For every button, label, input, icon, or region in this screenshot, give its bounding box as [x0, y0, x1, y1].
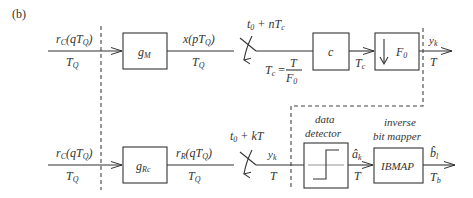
top-row: rC(qTQ) TQ gM x(pTQ) TQ t0 + nTc	[48, 17, 452, 86]
chip-period-equation: Tc = T F0	[265, 56, 302, 86]
top-sampler-time: t0 + nTc	[247, 17, 285, 32]
bottom-sampler-time: t0 + kT	[230, 129, 265, 144]
detector-output-rate: T	[354, 169, 362, 183]
svg-text:Tc =: Tc =	[265, 63, 285, 78]
top-output-signal: yk	[428, 34, 438, 48]
mapper-title-2: bit mapper	[373, 130, 422, 142]
top-mid-rate: TQ	[192, 55, 205, 70]
top-mid-signal: x(pTQ)	[182, 32, 215, 47]
detector-title-1: data	[315, 113, 335, 125]
mapper-title-1: inverse	[384, 116, 416, 128]
c-label: c	[328, 45, 334, 59]
svg-text:F0: F0	[285, 71, 297, 86]
bottom-input-signal: rC(qTQ)	[56, 146, 92, 161]
top-output-rate: T	[430, 55, 438, 69]
c-out-rate: Tc	[355, 56, 366, 71]
bottom-mid-rate: TQ	[188, 169, 201, 184]
top-input-rate: TQ	[66, 55, 79, 70]
svg-text:T: T	[290, 56, 298, 70]
top-input-signal: rC(qTQ)	[56, 32, 92, 47]
block-diagram: (b) rC(qTQ) TQ gM x(pTQ) TQ t0 + nTc	[0, 0, 473, 198]
bottom-sampler-switch-icon	[240, 150, 256, 174]
bottom-row: rC(qTQ) TQ gRc rR(qTQ) TQ t0 + kT yk T	[48, 113, 455, 188]
ibmap-label: IBMAP	[380, 160, 414, 172]
bottom-sampled-rate: T	[270, 169, 278, 183]
top-sampler-switch-icon	[240, 36, 256, 60]
bottom-output-bits: b̂l	[430, 146, 439, 161]
bottom-input-rate: TQ	[66, 169, 79, 184]
detector-output-symbol: âk	[352, 147, 362, 162]
bottom-output-rate: Tb	[430, 170, 441, 185]
detector-title-2: detector	[305, 127, 342, 139]
bottom-sampled-signal: yk	[267, 148, 277, 162]
panel-label: (b)	[12, 7, 26, 21]
bottom-mid-signal: rR(qTQ)	[176, 146, 212, 161]
